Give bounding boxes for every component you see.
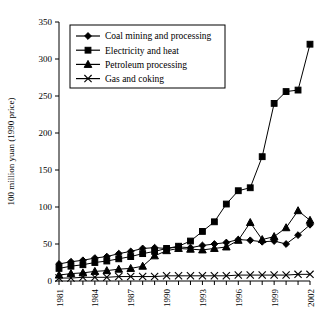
- line-chart: 0501001502002503003501981198419871990199…: [0, 0, 318, 324]
- x-tick-label: 1981: [55, 289, 65, 307]
- y-axis-title: 100 million yuan (1990 price): [6, 98, 16, 206]
- marker-triangle: [223, 243, 231, 250]
- y-tick-label: 250: [39, 91, 53, 101]
- marker-square: [85, 47, 91, 53]
- x-tick-label: 1990: [162, 289, 172, 308]
- marker-square: [140, 251, 146, 257]
- marker-square: [80, 262, 86, 268]
- y-tick-label: 350: [39, 17, 53, 27]
- marker-square: [200, 229, 206, 235]
- marker-square: [92, 260, 98, 266]
- x-tick-label: 1984: [90, 289, 100, 308]
- legend: Coal mining and processingElectricity an…: [70, 25, 225, 88]
- marker-square: [223, 201, 229, 207]
- legend-label: Electricity and heat: [105, 46, 179, 56]
- marker-square: [104, 258, 110, 264]
- x-tick-label: 2002: [306, 289, 316, 307]
- y-tick-label: 50: [43, 239, 53, 249]
- chart-container: 0501001502002503003501981198419871990199…: [0, 0, 318, 324]
- marker-square: [235, 188, 241, 194]
- marker-triangle: [294, 207, 302, 214]
- x-tick-label: 1987: [126, 289, 136, 308]
- x-tick-label: 1996: [234, 289, 244, 308]
- marker-triangle: [270, 233, 278, 240]
- marker-square: [307, 41, 313, 47]
- marker-diamond: [247, 237, 254, 244]
- marker-triangle: [246, 219, 254, 226]
- marker-square: [247, 185, 253, 191]
- legend-label: Petroleum processing: [105, 60, 187, 70]
- marker-square: [188, 238, 194, 244]
- marker-square: [211, 219, 217, 225]
- y-tick-label: 0: [48, 276, 53, 286]
- y-tick-label: 200: [39, 128, 53, 138]
- legend-label: Coal mining and processing: [105, 31, 212, 41]
- x-tick-label: 1993: [198, 289, 208, 308]
- marker-square: [259, 154, 265, 160]
- x-tick-label: 1999: [270, 289, 280, 308]
- marker-square: [295, 87, 301, 93]
- marker-square: [68, 263, 74, 269]
- marker-triangle: [306, 216, 314, 223]
- legend-label: Gas and coking: [105, 74, 164, 84]
- y-tick-label: 300: [39, 54, 53, 64]
- y-tick-label: 150: [39, 165, 53, 175]
- y-tick-label: 100: [39, 202, 53, 212]
- marker-square: [271, 101, 277, 107]
- marker-square: [116, 256, 122, 262]
- marker-square: [128, 254, 134, 260]
- marker-square: [283, 89, 289, 95]
